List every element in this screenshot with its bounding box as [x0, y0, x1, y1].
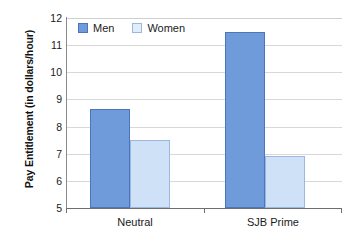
bar-women-neutral: [130, 140, 170, 208]
bar-men-neutral: [90, 109, 130, 208]
bar-men-sjb-prime: [225, 32, 265, 208]
x-category-label-neutral: Neutral: [66, 216, 204, 228]
x-tick-mark: [204, 208, 205, 213]
y-tick-label: 11: [40, 40, 62, 51]
gridline: [66, 18, 342, 19]
gridline: [66, 45, 342, 46]
legend-item-women: Women: [132, 22, 185, 34]
x-tick-mark: [341, 208, 342, 213]
y-axis-line: [66, 17, 67, 209]
y-tick-label: 7: [40, 148, 62, 159]
gridline: [66, 99, 342, 100]
y-tick-label: 9: [40, 94, 62, 105]
legend-item-men: Men: [78, 22, 114, 34]
y-tick-label: 10: [40, 67, 62, 78]
y-tick-label: 5: [40, 203, 62, 214]
y-axis-title: Pay Entitlement (in dollars/hour): [23, 11, 35, 207]
y-tick-label: 8: [40, 121, 62, 132]
x-tick-mark: [66, 208, 67, 213]
legend-label: Women: [147, 22, 185, 34]
legend-label: Men: [93, 22, 114, 34]
x-category-label-sjb-prime: SJB Prime: [204, 216, 342, 228]
y-tick-label: 12: [40, 13, 62, 24]
bar-women-sjb-prime: [265, 156, 305, 208]
legend-swatch-icon: [132, 23, 142, 33]
gridline: [66, 72, 342, 73]
bar-chart: Pay Entitlement (in dollars/hour) 12 11 …: [0, 0, 348, 244]
y-axis-tick-labels: 12 11 10 9 8 7 6 5: [38, 0, 62, 244]
legend-swatch-icon: [78, 23, 88, 33]
y-tick-label: 6: [40, 176, 62, 187]
plot-area: [66, 18, 342, 208]
legend: Men Women: [78, 22, 185, 34]
